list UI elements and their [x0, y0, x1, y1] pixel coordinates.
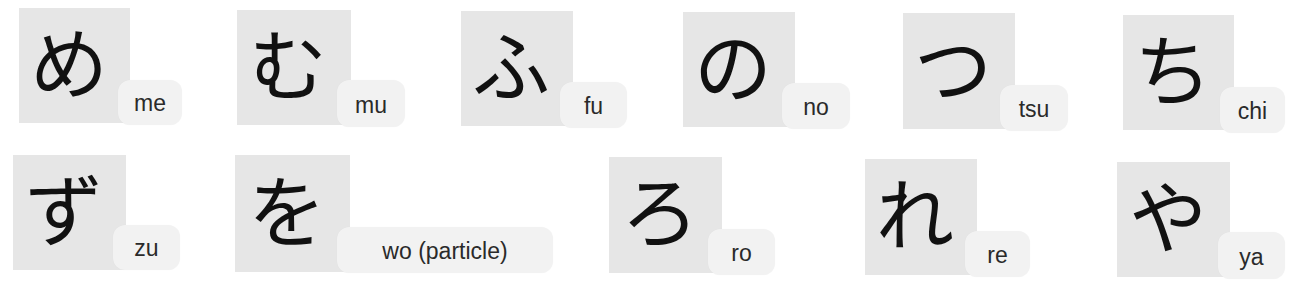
romaji-label: zu: [113, 225, 180, 270]
romaji-label: ro: [708, 229, 775, 275]
kana-box: め: [19, 8, 130, 123]
kana-box: の: [683, 12, 795, 127]
romaji-label: no: [782, 83, 850, 129]
romaji-label: wo (particle): [337, 227, 553, 273]
kana-character: め: [30, 27, 108, 105]
kana-box: や: [1117, 162, 1230, 277]
kana-box: む: [237, 10, 351, 125]
kana-box: を: [235, 155, 350, 272]
kana-box: ち: [1123, 15, 1234, 130]
kana-character: の: [694, 31, 772, 109]
kana-character: れ: [876, 178, 954, 256]
kana-character: ろ: [621, 176, 699, 254]
kana-character: や: [1129, 181, 1207, 259]
kana-box: れ: [865, 159, 977, 275]
kana-character: ち: [1134, 34, 1212, 112]
kana-character: つ: [914, 32, 992, 110]
romaji-label: me: [118, 80, 182, 125]
romaji-label: chi: [1220, 87, 1285, 133]
kana-character: ふ: [472, 30, 550, 108]
romaji-label: mu: [337, 80, 405, 127]
romaji-label: tsu: [1000, 85, 1068, 131]
kana-box: ふ: [461, 11, 573, 126]
kana-character: を: [248, 175, 326, 253]
romaji-label: fu: [560, 82, 627, 128]
romaji-label: ya: [1218, 232, 1285, 279]
kana-box: ず: [13, 155, 126, 270]
kana-character: む: [249, 29, 327, 107]
kana-box: つ: [903, 13, 1015, 129]
kana-box: ろ: [609, 157, 722, 273]
romaji-label: re: [965, 231, 1030, 277]
kana-character: ず: [25, 174, 103, 252]
